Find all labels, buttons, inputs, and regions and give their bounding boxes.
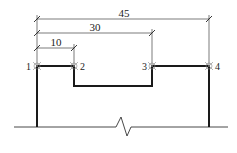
point-label-1: 1 [26, 61, 31, 72]
point-label-3: 3 [142, 61, 147, 72]
point-label-4: 4 [215, 61, 220, 72]
dimension-10: 10 [34, 36, 77, 51]
dimension-label-10: 10 [51, 36, 63, 48]
extension-lines [37, 15, 209, 66]
profile-diagram: 45 30 10 1 2 3 4 [0, 0, 237, 153]
dimension-45: 45 [34, 7, 212, 22]
dimension-label-45: 45 [119, 7, 131, 19]
dimension-label-30: 30 [90, 21, 102, 33]
structure-profile [37, 66, 209, 127]
ground-line [14, 117, 228, 136]
dimension-30: 30 [34, 21, 155, 36]
point-label-2: 2 [80, 61, 85, 72]
